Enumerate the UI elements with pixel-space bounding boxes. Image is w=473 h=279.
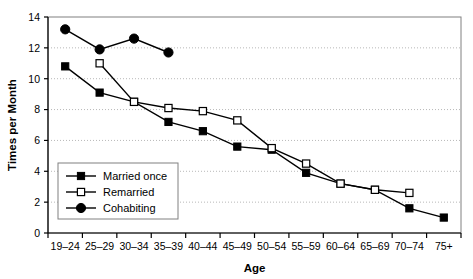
legend: Married onceRemarriedCohabiting bbox=[58, 163, 178, 219]
x-tick-label: 70–74 bbox=[395, 240, 424, 252]
y-tick-label: 4 bbox=[34, 165, 40, 177]
data-point-marker bbox=[268, 145, 275, 152]
y-tick-label: 14 bbox=[28, 11, 40, 23]
x-tick-label: 75+ bbox=[435, 240, 453, 252]
x-tick-label: 25–29 bbox=[85, 240, 114, 252]
x-tick-label: 45–49 bbox=[223, 240, 252, 252]
line-chart: 0246810121419–2425–2930–3435–3940–4445–4… bbox=[0, 0, 473, 279]
data-point-marker bbox=[76, 203, 85, 212]
data-point-marker bbox=[77, 188, 84, 195]
data-point-marker bbox=[440, 214, 447, 221]
legend-label: Remarried bbox=[103, 186, 154, 198]
y-tick-label: 8 bbox=[34, 103, 40, 115]
y-tick-label: 0 bbox=[34, 227, 40, 239]
x-axis-title: Age bbox=[244, 262, 266, 274]
data-point-marker bbox=[199, 128, 206, 135]
y-tick-label: 2 bbox=[34, 196, 40, 208]
x-axis: 19–2425–2930–3435–3940–4445–4950–5455–59… bbox=[48, 233, 461, 252]
data-point-marker bbox=[303, 169, 310, 176]
data-point-marker bbox=[165, 118, 172, 125]
legend-label: Cohabiting bbox=[103, 202, 156, 214]
x-tick-label: 50–54 bbox=[257, 240, 286, 252]
data-point-marker bbox=[406, 205, 413, 212]
data-point-marker bbox=[62, 63, 69, 70]
data-point-marker bbox=[130, 98, 137, 105]
data-point-marker bbox=[61, 25, 70, 34]
chart-container: 0246810121419–2425–2930–3435–3940–4445–4… bbox=[0, 0, 473, 279]
x-tick-label: 19–24 bbox=[51, 240, 80, 252]
data-point-marker bbox=[96, 89, 103, 96]
data-point-marker bbox=[95, 45, 104, 54]
y-axis: 02468101214 bbox=[28, 11, 48, 239]
series-cohabiting bbox=[61, 25, 173, 57]
data-point-marker bbox=[129, 34, 138, 43]
y-tick-label: 6 bbox=[34, 134, 40, 146]
data-point-marker bbox=[337, 180, 344, 187]
data-point-marker bbox=[77, 172, 84, 179]
data-point-marker bbox=[303, 160, 310, 167]
x-tick-label: 55–59 bbox=[292, 240, 321, 252]
legend-label: Married once bbox=[103, 170, 167, 182]
x-tick-label: 30–34 bbox=[119, 240, 148, 252]
data-point-marker bbox=[165, 104, 172, 111]
x-tick-label: 35–39 bbox=[154, 240, 183, 252]
data-point-marker bbox=[164, 48, 173, 57]
data-point-marker bbox=[96, 60, 103, 67]
data-point-marker bbox=[234, 117, 241, 124]
data-point-marker bbox=[199, 108, 206, 115]
data-point-marker bbox=[406, 189, 413, 196]
x-tick-label: 60–64 bbox=[326, 240, 355, 252]
legend-item[interactable]: Cohabiting bbox=[66, 202, 156, 214]
data-point-marker bbox=[371, 186, 378, 193]
series-line bbox=[65, 29, 168, 52]
x-tick-label: 65–69 bbox=[360, 240, 389, 252]
y-tick-label: 10 bbox=[28, 73, 40, 85]
data-point-marker bbox=[234, 143, 241, 150]
y-axis-title: Times per Month bbox=[6, 79, 18, 171]
y-tick-label: 12 bbox=[28, 42, 40, 54]
x-tick-label: 40–44 bbox=[188, 240, 217, 252]
